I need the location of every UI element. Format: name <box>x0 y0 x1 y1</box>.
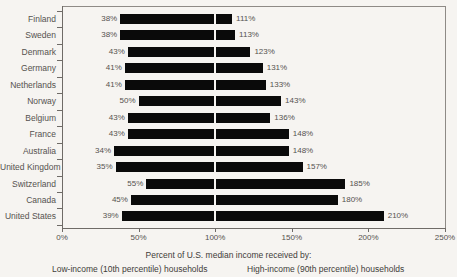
low-income-value-label: 50% <box>120 96 136 106</box>
legend-high-income-label: High-income (90th percentile) households <box>247 264 404 275</box>
chart-row: Germany41%131% <box>0 63 457 79</box>
category-label: Australia <box>0 146 56 156</box>
x-axis-tick-label: 200% <box>358 233 378 242</box>
high-income-value-label: 210% <box>388 211 408 221</box>
category-label: Switzerland <box>0 179 56 189</box>
category-label: Germany <box>0 63 56 73</box>
income-comparison-chart: 0%50%100%150%200%250% Finland38%111%Swed… <box>0 0 457 277</box>
high-income-value-label: 136% <box>274 113 294 123</box>
plot-frame-top-border <box>62 6 446 7</box>
x-axis-caption: Percent of U.S. median income received b… <box>0 250 457 261</box>
category-label: Belgium <box>0 113 56 123</box>
low-income-value-label: 39% <box>103 211 119 221</box>
high-income-value-label: 143% <box>285 96 305 106</box>
category-label: United Kingdom <box>0 162 56 172</box>
low-income-value-label: 43% <box>109 129 125 139</box>
reference-line-notch <box>214 129 216 139</box>
reference-line-notch <box>214 80 216 90</box>
high-income-value-label: 148% <box>293 129 313 139</box>
low-income-value-label: 43% <box>109 47 125 57</box>
low-income-value-label: 35% <box>97 162 113 172</box>
chart-row: Switzerland55%185% <box>0 179 457 195</box>
low-income-value-label: 41% <box>106 63 122 73</box>
category-label: Norway <box>0 96 56 106</box>
chart-row: United States39%210% <box>0 211 457 227</box>
range-bar <box>128 113 270 123</box>
legend-low-income-label: Low-income (10th percentile) households <box>52 264 207 275</box>
x-axis-tick-label: 50% <box>131 233 147 242</box>
range-bar <box>120 30 235 40</box>
low-income-value-label: 55% <box>127 179 143 189</box>
reference-line-notch <box>214 179 216 189</box>
high-income-value-label: 185% <box>349 179 369 189</box>
high-income-value-label: 157% <box>307 162 327 172</box>
range-bar <box>122 211 384 221</box>
category-label: Canada <box>0 195 56 205</box>
category-label: Denmark <box>0 47 56 57</box>
reference-line-notch <box>214 195 216 205</box>
low-income-value-label: 41% <box>106 80 122 90</box>
x-axis-tick <box>368 228 369 232</box>
range-bar <box>114 146 289 156</box>
x-axis-tick <box>292 228 293 232</box>
chart-row: Denmark43%123% <box>0 47 457 63</box>
reference-line-notch <box>214 63 216 73</box>
x-axis-tick <box>62 228 63 232</box>
x-axis-tick-label: 100% <box>205 233 225 242</box>
x-axis-tick-label: 250% <box>435 233 455 242</box>
x-axis-tick-label: 0% <box>56 233 68 242</box>
x-axis-tick <box>139 228 140 232</box>
reference-line-notch <box>214 14 216 24</box>
range-bar <box>139 96 281 106</box>
chart-row: Australia34%148% <box>0 146 457 162</box>
high-income-value-label: 148% <box>293 146 313 156</box>
range-bar <box>131 195 338 205</box>
category-label: United States <box>0 211 56 221</box>
chart-row: Canada45%180% <box>0 195 457 211</box>
chart-row: Sweden38%113% <box>0 30 457 46</box>
reference-line-notch <box>214 146 216 156</box>
x-axis-tick-label: 150% <box>282 233 302 242</box>
x-axis-tick <box>215 228 216 232</box>
chart-row: Belgium43%136% <box>0 113 457 129</box>
range-bar <box>128 47 251 57</box>
category-label: Finland <box>0 14 56 24</box>
low-income-value-label: 43% <box>109 113 125 123</box>
high-income-value-label: 131% <box>267 63 287 73</box>
range-bar <box>128 129 289 139</box>
chart-row: France43%148% <box>0 129 457 145</box>
low-income-value-label: 38% <box>101 30 117 40</box>
y-axis-tick <box>57 11 62 12</box>
chart-row: Norway50%143% <box>0 96 457 112</box>
reference-line-notch <box>214 47 216 57</box>
high-income-value-label: 113% <box>239 30 259 40</box>
category-label: France <box>0 129 56 139</box>
category-label: Sweden <box>0 30 56 40</box>
low-income-value-label: 38% <box>101 14 117 24</box>
high-income-value-label: 123% <box>254 47 274 57</box>
reference-line-notch <box>214 96 216 106</box>
chart-row: Netherlands41%133% <box>0 80 457 96</box>
low-income-value-label: 34% <box>95 146 111 156</box>
high-income-value-label: 180% <box>342 195 362 205</box>
category-label: Netherlands <box>0 80 56 90</box>
reference-line-notch <box>214 30 216 40</box>
reference-line-notch <box>214 162 216 172</box>
chart-row: Finland38%111% <box>0 14 457 30</box>
high-income-value-label: 133% <box>270 80 290 90</box>
range-bar <box>125 80 266 90</box>
x-axis-tick <box>445 228 446 232</box>
range-bar <box>146 179 345 189</box>
range-bar <box>116 162 303 172</box>
reference-line-notch <box>214 211 216 221</box>
low-income-value-label: 45% <box>112 195 128 205</box>
range-bar <box>125 63 263 73</box>
reference-line-notch <box>214 113 216 123</box>
chart-row: United Kingdom35%157% <box>0 162 457 178</box>
x-axis-line <box>62 228 446 229</box>
high-income-value-label: 111% <box>236 14 255 24</box>
